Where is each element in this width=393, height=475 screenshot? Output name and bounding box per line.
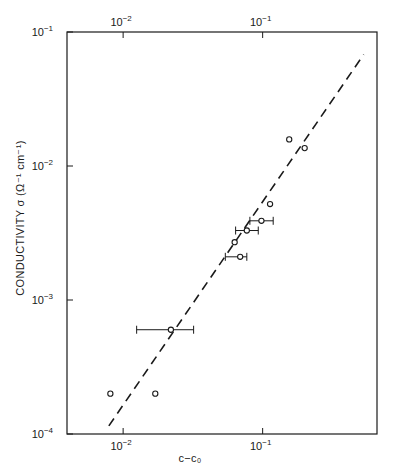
axis-ticks	[67, 32, 263, 434]
data-point	[267, 201, 272, 206]
data-point	[108, 391, 113, 396]
data-point	[153, 391, 158, 396]
top-x-tick-label: 10−2	[110, 14, 132, 28]
circle-marker-icon	[302, 146, 307, 151]
y-tick-label: 10−1	[32, 24, 54, 38]
circle-marker-icon	[108, 391, 113, 396]
data-point	[302, 146, 307, 151]
data-point	[225, 253, 247, 261]
y-tick-label: 10−2	[32, 158, 54, 172]
y-tick-label: 10−4	[32, 426, 54, 440]
data-point	[287, 137, 292, 142]
circle-marker-icon	[287, 137, 292, 142]
data-point	[236, 227, 259, 235]
circle-marker-icon	[259, 218, 264, 223]
conductivity-chart: 10−210−110−210−110−110−210−310−4 c−c₀ CO…	[0, 0, 393, 475]
data-point	[232, 240, 237, 245]
x-axis-label: c−c₀	[178, 452, 201, 464]
circle-marker-icon	[153, 391, 158, 396]
x-tick-label: 10−1	[250, 438, 272, 452]
x-tick-label: 10−2	[110, 438, 132, 452]
circle-marker-icon	[238, 254, 243, 259]
data-point	[137, 326, 194, 334]
plot-frame	[67, 32, 377, 434]
circle-marker-icon	[168, 327, 173, 332]
circle-marker-icon	[232, 240, 237, 245]
y-tick-label: 10−3	[32, 292, 54, 306]
data-point	[250, 217, 273, 225]
y-axis-label: CONDUCTIVITY σ (Ω⁻¹ cm⁻¹)	[14, 140, 26, 295]
data-points	[108, 137, 307, 396]
circle-marker-icon	[244, 228, 249, 233]
circle-marker-icon	[267, 201, 272, 206]
top-x-tick-label: 10−1	[250, 14, 272, 28]
